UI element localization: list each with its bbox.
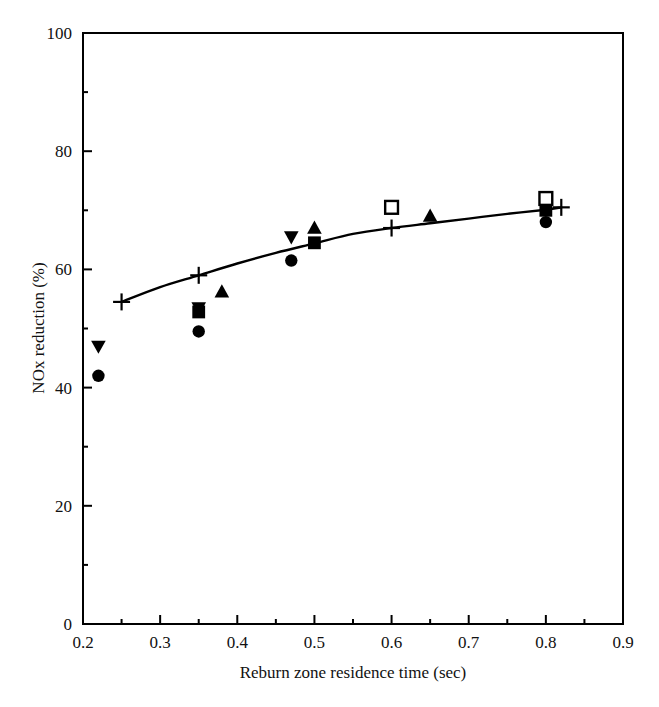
x-tick-label: 0.7 bbox=[458, 633, 480, 652]
x-axis-tick-labels: 0.20.30.40.50.60.70.80.9 bbox=[72, 633, 633, 652]
y-tick-label: 60 bbox=[55, 260, 72, 279]
y-tick-label: 80 bbox=[55, 142, 72, 161]
y-tick-label: 20 bbox=[55, 497, 72, 516]
x-tick-label: 0.6 bbox=[381, 633, 402, 652]
x-tick-label: 0.3 bbox=[150, 633, 171, 652]
model-trend-line bbox=[122, 207, 562, 302]
x-tick-label: 0.5 bbox=[304, 633, 325, 652]
x-tick-label: 0.9 bbox=[612, 633, 633, 652]
plot-frame bbox=[83, 33, 623, 624]
x-tick-label: 0.4 bbox=[227, 633, 249, 652]
x-tick-label: 0.8 bbox=[535, 633, 556, 652]
y-tick-label: 100 bbox=[47, 24, 73, 43]
y-tick-label: 40 bbox=[55, 379, 72, 398]
y-axis-tick-labels: 020406080100 bbox=[47, 24, 73, 634]
x-axis-title: Reburn zone residence time (sec) bbox=[240, 663, 467, 682]
y-tick-label: 0 bbox=[64, 615, 73, 634]
nox-reduction-scatter-chart: 0.20.30.40.50.60.70.80.9 020406080100 Re… bbox=[0, 0, 659, 707]
series-filled-up-triangle bbox=[215, 209, 438, 298]
y-axis-title: NOx reduction (%) bbox=[29, 262, 48, 393]
x-tick-label: 0.2 bbox=[72, 633, 93, 652]
figure-container: 0.20.30.40.50.60.70.80.9 020406080100 Re… bbox=[0, 0, 659, 707]
trend-line-path bbox=[122, 207, 562, 302]
